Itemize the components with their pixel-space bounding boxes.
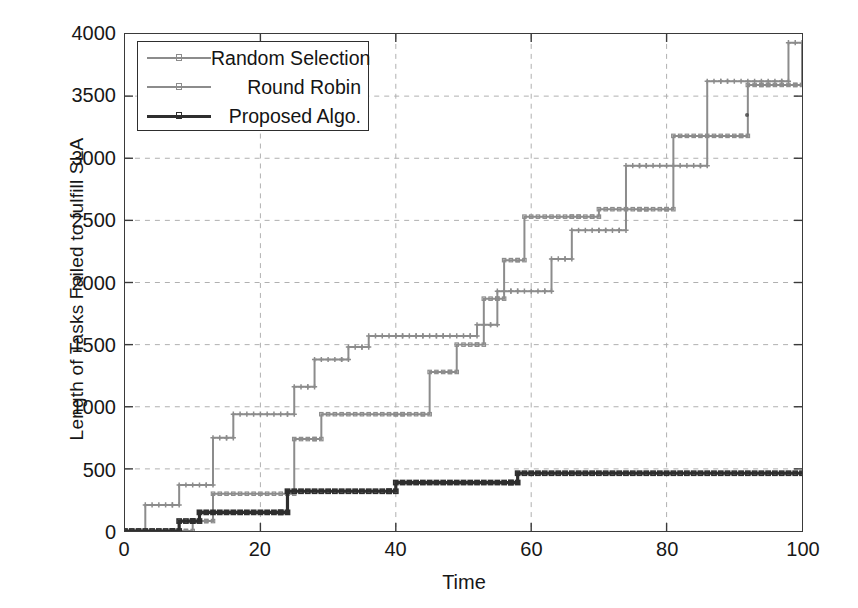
legend-entry-round-robin: Round Robin	[138, 72, 370, 102]
y-tick-label: 2500	[42, 209, 116, 232]
series-line	[125, 473, 802, 531]
y-axis-tick-labels: 05001000150020002500300035004000	[38, 0, 116, 608]
x-tick-label: 100	[786, 538, 819, 561]
y-tick-label: 1500	[42, 333, 116, 356]
x-axis-tick-labels: 020406080100	[0, 538, 858, 568]
y-tick-label: 1000	[42, 396, 116, 419]
legend-label: Random Selection	[211, 47, 379, 70]
legend-line-sample-icon	[147, 48, 211, 68]
x-tick-label: 80	[656, 538, 678, 561]
legend-line-sample-icon	[147, 106, 211, 126]
y-tick-label: 3000	[42, 146, 116, 169]
legend-entry-proposed-algo: Proposed Algo.	[138, 101, 370, 131]
legend-line-sample-icon	[147, 77, 211, 97]
y-tick-label: 2000	[42, 271, 116, 294]
x-tick-label: 20	[249, 538, 271, 561]
scan-artifact-speck	[745, 113, 749, 117]
series-markers	[125, 471, 802, 531]
x-axis-label: Time	[124, 571, 804, 594]
legend: Random Selection Round Robin Proposed Al…	[137, 41, 369, 131]
y-tick-label: 3500	[42, 84, 116, 107]
legend-entry-random-selection: Random Selection	[138, 43, 370, 73]
y-tick-label: 500	[42, 458, 116, 481]
y-tick-label: 4000	[42, 22, 116, 45]
series-markers	[125, 83, 802, 531]
x-tick-label: 0	[118, 538, 129, 561]
chart-figure: Length of Tasks Failed to fulfill SLA 05…	[0, 0, 858, 608]
legend-label: Proposed Algo.	[211, 105, 370, 128]
x-tick-label: 40	[384, 538, 406, 561]
legend-label: Round Robin	[211, 76, 370, 99]
x-tick-label: 60	[520, 538, 542, 561]
